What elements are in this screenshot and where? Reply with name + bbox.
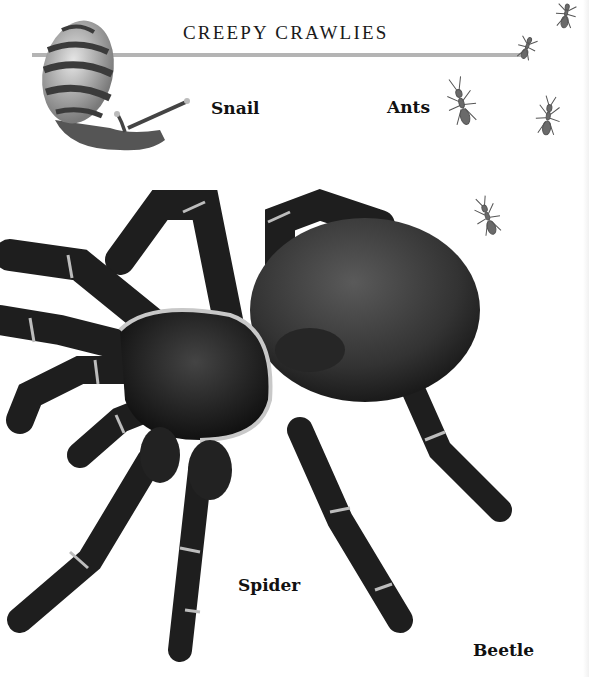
snail-tentacle	[128, 102, 186, 128]
label-beetle: Beetle	[473, 640, 534, 660]
ant	[554, 2, 578, 29]
ant	[534, 95, 563, 137]
ant	[469, 193, 505, 238]
label-snail: Snail	[211, 98, 260, 118]
chelicera	[188, 440, 232, 500]
ant	[441, 74, 480, 128]
snail-illustration	[33, 14, 190, 150]
spider-abdomen	[250, 218, 480, 402]
ant	[514, 35, 538, 62]
chelicera	[140, 427, 180, 483]
label-spider: Spider	[238, 575, 300, 595]
snail-body	[55, 120, 165, 150]
label-ants: Ants	[387, 97, 430, 117]
page-title: CREEPY CRAWLIES	[183, 22, 388, 44]
book-page: CREEPY CRAWLIES Snail Ants Spider Beetle	[0, 0, 589, 677]
spider-cephalothorax	[120, 310, 271, 440]
ant-illustration	[441, 2, 577, 238]
